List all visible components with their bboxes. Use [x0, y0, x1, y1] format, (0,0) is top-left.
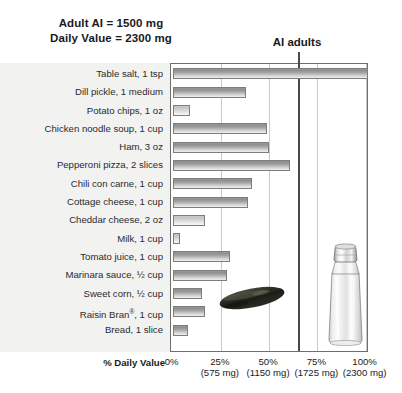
bar: [173, 325, 188, 336]
category-label: Pepperoni pizza, 2 slices: [0, 159, 163, 170]
bar: [173, 87, 246, 98]
category-label-column: Table salt, 1 tspDill pickle, 1 mediumPo…: [0, 63, 170, 352]
category-label: Bread, 1 slice: [0, 324, 163, 335]
note-adult-ai: Adult AI = 1500 mg: [0, 16, 222, 31]
bar: [173, 123, 268, 134]
category-label: Dill pickle, 1 medium: [0, 86, 163, 97]
category-label: Tomato juice, 1 cup: [0, 251, 163, 262]
x-tick-100pct: 100%(2300 mg): [333, 356, 397, 378]
bar: [173, 233, 181, 244]
bar: [173, 251, 231, 262]
gridline-75pct: [317, 64, 318, 351]
category-label: Chicken noodle soup, 1 cup: [0, 123, 163, 134]
category-label: Marinara sauce, ½ cup: [0, 269, 163, 280]
dill-pickle-photo: [216, 281, 288, 315]
ai-adults-reference-line: [298, 52, 299, 351]
bar: [173, 215, 206, 226]
bar: [173, 306, 206, 317]
sodium-daily-value-chart: Adult AI = 1500 mg Daily Value = 2300 mg…: [0, 0, 402, 393]
bar: [173, 160, 291, 171]
x-tick-milligrams: (2300 mg): [333, 367, 397, 378]
bar: [173, 105, 190, 116]
x-tick-percent: 100%: [333, 356, 397, 367]
chart-notes: Adult AI = 1500 mg Daily Value = 2300 mg: [0, 16, 222, 46]
bar: [173, 270, 227, 281]
salt-shaker-photo: [323, 243, 368, 349]
bar: [173, 178, 252, 189]
category-label: Cheddar cheese, 2 oz: [0, 214, 163, 225]
category-label: Potato chips, 1 oz: [0, 105, 163, 116]
bar: [173, 68, 368, 79]
bar: [173, 288, 202, 299]
category-label: Raisin Bran®, 1 cup: [0, 306, 163, 320]
category-label: Ham, 3 oz: [0, 141, 163, 152]
category-label: Cottage cheese, 1 cup: [0, 196, 163, 207]
note-daily-value: Daily Value = 2300 mg: [0, 31, 222, 46]
category-label: Chili con carne, 1 cup: [0, 178, 163, 189]
bar: [173, 142, 270, 153]
category-label: Milk, 1 cup: [0, 233, 163, 244]
category-label: Table salt, 1 tsp: [0, 68, 163, 79]
bar: [173, 197, 248, 208]
category-label: Sweet corn, ½ cup: [0, 288, 163, 299]
ai-adults-label: AI adults: [247, 36, 347, 48]
